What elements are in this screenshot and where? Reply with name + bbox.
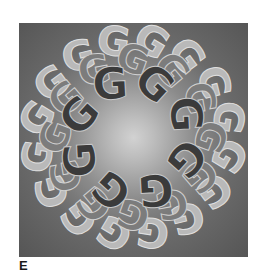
g-glyph: G [53, 140, 106, 179]
g-glyph: G [160, 95, 213, 134]
g-glyph: G [91, 57, 130, 110]
figure-panel: GGGGGGGGGGGGGGGGGGGGGGGGGGGGGGGGGGGG [19, 23, 248, 257]
g-glyph: G [136, 164, 175, 217]
panel-label: E [19, 259, 28, 272]
g-rosette-illustration: GGGGGGGGGGGGGGGGGGGGGGGGGGGGGGGGGGGG [19, 23, 248, 257]
glyph-ring-middle: GGGGGGGGGGGG [28, 32, 238, 242]
